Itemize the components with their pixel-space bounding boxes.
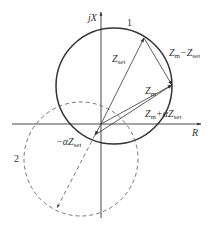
zm-label: Zm <box>145 85 157 98</box>
impedance-circle-diagram: jX R 1 2 Zset Zm Zm−Zset Zm+αZset −αZset <box>0 0 215 232</box>
neg-azset-label: −αZset <box>56 136 81 149</box>
zset-vector <box>101 38 144 124</box>
zm-minus-zset-label: Zm−Zset <box>169 47 200 60</box>
zm-minus-zset-vector <box>144 38 172 85</box>
circle-2-label: 2 <box>14 153 19 164</box>
y-axis-label: jX <box>86 12 98 23</box>
circle-2 <box>24 102 138 216</box>
zm-plus-azset-label: Zm+αZset <box>145 108 181 121</box>
circle-1-label: 1 <box>127 17 132 28</box>
x-axis-label: R <box>191 127 198 138</box>
circle-1 <box>56 28 172 144</box>
zset-label: Zset <box>112 53 125 66</box>
